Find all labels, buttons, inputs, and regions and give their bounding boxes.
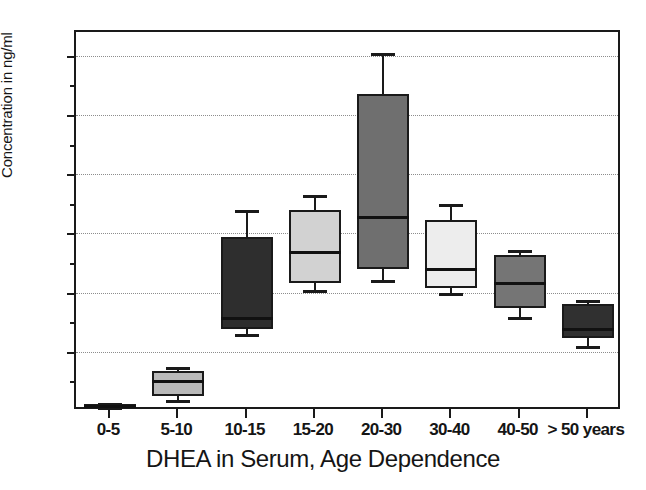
- chart-title: DHEA in Serum, Age Dependence: [0, 445, 646, 473]
- whisker-lower: [519, 308, 521, 317]
- box-plot-7: [494, 32, 546, 407]
- x-tick-label-7: 40-50: [497, 420, 537, 440]
- whisker-cap-lower: [576, 346, 600, 349]
- median-line: [562, 328, 614, 331]
- whisker-lower: [587, 338, 589, 346]
- y-tick-minor-27.5: [70, 85, 76, 87]
- median-line: [84, 405, 136, 408]
- x-tick-4: [313, 409, 315, 418]
- x-tick-5: [381, 409, 383, 418]
- y-tick-10: [67, 293, 76, 295]
- box-plot-1: [84, 32, 136, 407]
- box-iqr: [357, 94, 409, 269]
- y-tick-minor-7.5: [70, 322, 76, 324]
- box-plot-6: [425, 32, 477, 407]
- x-axis: 0-55-1010-1515-2020-3030-4040-50> 50 yea…: [74, 409, 620, 449]
- plot-area: 51015202530: [74, 30, 620, 409]
- y-tick-minor-17.5: [70, 204, 76, 206]
- box-plot-3: [221, 32, 273, 407]
- whisker-cap-lower: [508, 317, 532, 320]
- whisker-cap-upper: [576, 300, 600, 303]
- whisker-cap-upper: [303, 195, 327, 198]
- box-iqr: [221, 237, 273, 329]
- whisker-cap-lower: [166, 400, 190, 403]
- whisker-cap-upper: [439, 204, 463, 207]
- box-iqr: [425, 220, 477, 288]
- median-line: [357, 216, 409, 219]
- x-tick-label-5: 20-30: [361, 420, 401, 440]
- x-tick-label-2: 5-10: [161, 420, 193, 440]
- whisker-upper: [382, 53, 384, 93]
- x-tick-3: [245, 409, 247, 418]
- x-tick-label-6: 30-40: [429, 420, 469, 440]
- x-tick-label-1: 0-5: [97, 420, 120, 440]
- whisker-lower: [314, 283, 316, 290]
- median-line: [289, 251, 341, 254]
- box-plot-2: [152, 32, 204, 407]
- whisker-cap-lower: [371, 280, 395, 283]
- whisker-cap-lower: [303, 290, 327, 293]
- whisker-cap-upper: [235, 210, 259, 213]
- boxplot-figure: Concentration in ng/ml 51015202530 0-55-…: [0, 0, 646, 490]
- median-line: [494, 282, 546, 285]
- box-plot-8: [562, 32, 614, 407]
- whisker-upper: [246, 210, 248, 237]
- whisker-cap-lower: [235, 334, 259, 337]
- y-tick-5: [67, 352, 76, 354]
- y-tick-minor-2.5: [70, 381, 76, 383]
- x-tick-label-4: 15-20: [293, 420, 333, 440]
- box-iqr: [562, 304, 614, 337]
- x-tick-label-3: 10-15: [224, 420, 264, 440]
- y-tick-30: [67, 56, 76, 58]
- whisker-cap-upper: [508, 250, 532, 253]
- y-tick-20: [67, 174, 76, 176]
- whisker-cap-lower: [439, 293, 463, 296]
- y-tick-minor-12.5: [70, 263, 76, 265]
- y-tick-25: [67, 115, 76, 117]
- whisker-cap-upper: [166, 367, 190, 370]
- x-tick-8: [586, 409, 588, 418]
- x-tick-7: [518, 409, 520, 418]
- median-line: [425, 268, 477, 271]
- median-line: [152, 380, 204, 383]
- whisker-lower: [382, 269, 384, 280]
- box-plot-5: [357, 32, 409, 407]
- y-tick-minor-22.5: [70, 145, 76, 147]
- median-line: [221, 317, 273, 320]
- box-plot-4: [289, 32, 341, 407]
- x-tick-1: [108, 409, 110, 418]
- x-tick-6: [449, 409, 451, 418]
- y-axis-title: Concentration in ng/ml: [0, 0, 15, 178]
- x-tick-label-8: > 50 years: [548, 420, 625, 440]
- whisker-cap-upper: [371, 53, 395, 56]
- y-tick-15: [67, 233, 76, 235]
- x-tick-2: [176, 409, 178, 418]
- box-iqr: [289, 210, 341, 283]
